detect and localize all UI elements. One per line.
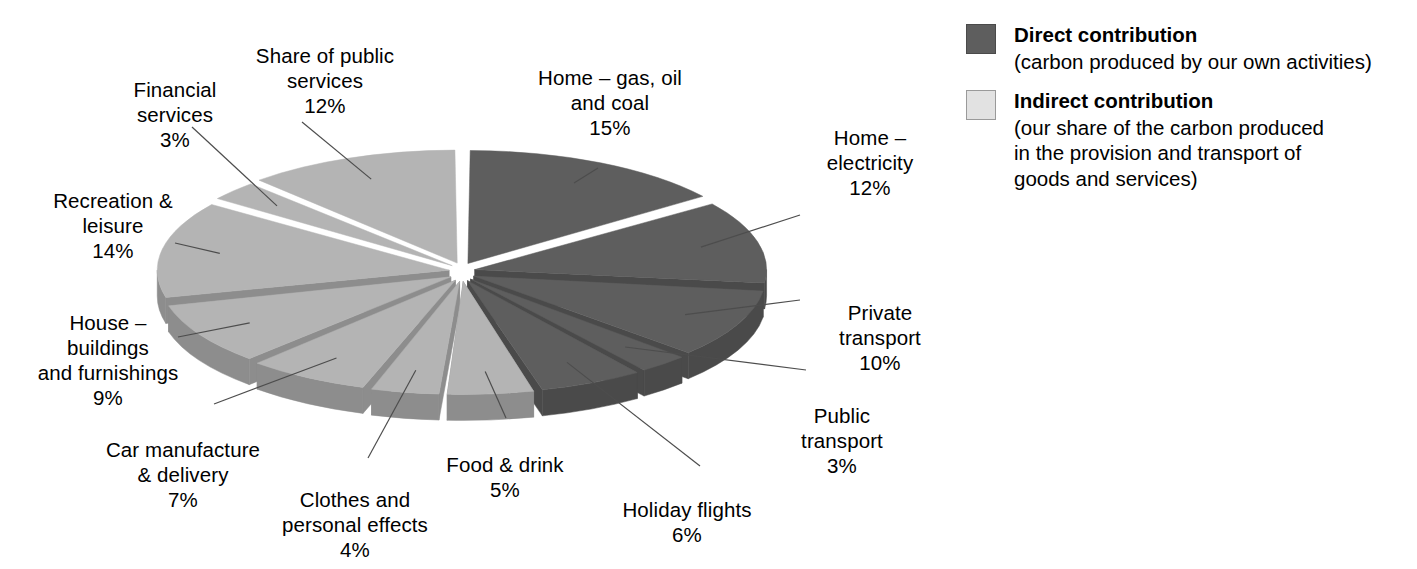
legend-item-indirect: Indirect contribution (our share of the … xyxy=(966,88,1406,191)
callout-pct: 7% xyxy=(88,487,278,512)
callout-recreation-leisure: Recreation & leisure 14% xyxy=(18,163,208,288)
callout-pct: 3% xyxy=(762,453,922,478)
legend-text-indirect: Indirect contribution (our share of the … xyxy=(1014,88,1324,191)
callout-private-transport: Private transport 10% xyxy=(800,275,960,400)
legend-item-direct: Direct contribution (carbon produced by … xyxy=(966,22,1406,74)
legend-description-direct: (carbon produced by our own activities) xyxy=(1014,49,1372,75)
legend-title-indirect: Indirect contribution xyxy=(1014,88,1324,114)
chart-legend: Direct contribution (carbon produced by … xyxy=(966,22,1406,205)
callout-pct: 15% xyxy=(510,115,710,140)
callout-share-public-services: Share of public services 12% xyxy=(225,18,425,143)
callout-home-electricity: Home – electricity 12% xyxy=(790,100,950,225)
legend-text-direct: Direct contribution (carbon produced by … xyxy=(1014,22,1372,74)
callout-pct: 3% xyxy=(95,127,255,152)
legend-swatch-indirect-icon xyxy=(966,90,996,120)
carbon-footprint-pie-figure: Share of public services 12% Financial s… xyxy=(0,0,1417,569)
pie-slices-group xyxy=(157,150,766,420)
callout-pct: 4% xyxy=(255,537,455,562)
callout-label: Clothes and personal effects xyxy=(282,488,428,536)
callout-pct: 12% xyxy=(790,175,950,200)
callout-label: House – buildings and furnishings xyxy=(38,311,179,384)
callout-pct: 10% xyxy=(800,350,960,375)
callout-label: Recreation & leisure xyxy=(53,189,173,237)
callout-label: Share of public services xyxy=(256,44,394,92)
legend-title-direct: Direct contribution xyxy=(1014,22,1372,48)
callout-holiday-flights: Holiday flights 6% xyxy=(592,472,782,569)
callout-pct: 5% xyxy=(410,477,600,502)
callout-label: Home – gas, oil and coal xyxy=(538,66,682,114)
callout-financial-services: Financial services 3% xyxy=(95,52,255,177)
callout-pct: 6% xyxy=(592,522,782,547)
legend-description-indirect: (our share of the carbon produced in the… xyxy=(1014,115,1324,192)
pie-slice-side-food-and-drink[interactable] xyxy=(447,391,533,420)
callout-car-manufacture-delivery: Car manufacture & delivery 7% xyxy=(88,412,278,537)
callout-home-gas-oil-coal: Home – gas, oil and coal 15% xyxy=(510,40,710,165)
callout-pct: 12% xyxy=(225,93,425,118)
callout-label: Financial services xyxy=(134,78,217,126)
callout-label: Home – electricity xyxy=(827,126,914,174)
callout-pct: 9% xyxy=(8,385,208,410)
callout-label: Food & drink xyxy=(446,453,563,476)
callout-label: Car manufacture & delivery xyxy=(106,438,260,486)
callout-label: Private transport xyxy=(839,301,921,349)
legend-swatch-direct-icon xyxy=(966,24,996,54)
callout-pct: 14% xyxy=(18,238,208,263)
callout-label: Holiday flights xyxy=(622,498,751,521)
callout-food-and-drink: Food & drink 5% xyxy=(410,427,600,527)
callout-label: Public transport xyxy=(801,404,883,452)
